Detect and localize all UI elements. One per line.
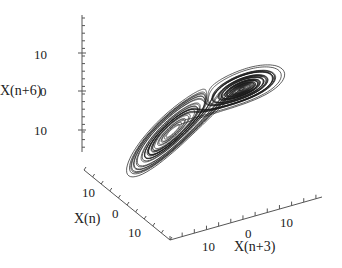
z-tick-bottom: 10 <box>34 124 47 137</box>
trajectory-lines <box>127 65 285 177</box>
z-axis-label: X(n+6) <box>0 84 41 98</box>
x-tick-3: 10 <box>128 226 141 239</box>
x-tick-1: 10 <box>82 186 95 199</box>
z-tick-top: 10 <box>34 48 47 61</box>
y-axis-label: X(n+3) <box>234 240 275 254</box>
x-tick-2: 0 <box>112 207 119 220</box>
z-axis <box>78 15 86 152</box>
x-axis-label: X(n) <box>74 212 100 226</box>
y-tick-3: 10 <box>280 216 293 229</box>
y-tick-1: 10 <box>202 240 215 253</box>
